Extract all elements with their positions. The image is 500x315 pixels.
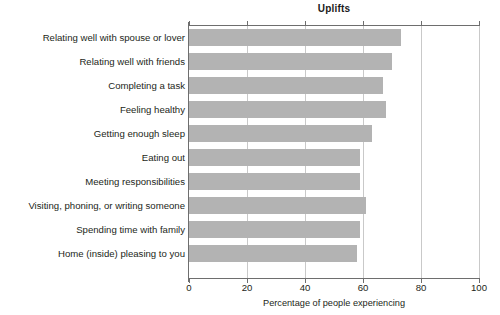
category-label: Meeting responsibilities bbox=[4, 170, 189, 194]
axis-line-bottom bbox=[189, 278, 479, 279]
bar-row bbox=[189, 26, 479, 50]
x-tick-label: 100 bbox=[471, 282, 487, 293]
x-tick-label: 60 bbox=[358, 282, 369, 293]
bar-row bbox=[189, 50, 479, 74]
bar-row bbox=[189, 122, 479, 146]
bar-row bbox=[189, 170, 479, 194]
plot-area bbox=[189, 26, 479, 278]
gridline-100 bbox=[479, 26, 480, 278]
chart-title: Uplifts bbox=[189, 3, 479, 14]
bar-row bbox=[189, 98, 479, 122]
tick-top-40 bbox=[305, 21, 306, 26]
category-label: Getting enough sleep bbox=[4, 122, 189, 146]
tick-top-80 bbox=[421, 21, 422, 26]
category-label: Feeling healthy bbox=[4, 98, 189, 122]
bar bbox=[189, 197, 366, 214]
bar bbox=[189, 29, 401, 46]
tick-top-60 bbox=[363, 21, 364, 26]
category-label: Home (inside) pleasing to you bbox=[4, 242, 189, 266]
bar-row bbox=[189, 242, 479, 266]
category-label: Relating well with friends bbox=[4, 50, 189, 74]
bar-row bbox=[189, 146, 479, 170]
bar-row bbox=[189, 194, 479, 218]
x-tick-label: 40 bbox=[300, 282, 311, 293]
category-label: Eating out bbox=[4, 146, 189, 170]
bar bbox=[189, 53, 392, 70]
bar bbox=[189, 125, 372, 142]
category-label: Spending time with family bbox=[4, 218, 189, 242]
x-tick-label: 20 bbox=[242, 282, 253, 293]
bar bbox=[189, 77, 383, 94]
bar bbox=[189, 221, 360, 238]
bar bbox=[189, 245, 357, 262]
tick-top-20 bbox=[247, 21, 248, 26]
x-tick-label: 80 bbox=[416, 282, 427, 293]
bar-row bbox=[189, 218, 479, 242]
category-axis-labels: Relating well with spouse or loverRelati… bbox=[0, 26, 189, 278]
tick-top-0 bbox=[189, 21, 190, 26]
bar-row bbox=[189, 74, 479, 98]
chart-figure: Uplifts Relating well with spouse or lov… bbox=[0, 0, 500, 315]
x-axis-title: Percentage of people experiencing bbox=[189, 298, 479, 308]
bar bbox=[189, 101, 386, 118]
x-tick-label: 0 bbox=[186, 282, 191, 293]
category-label: Relating well with spouse or lover bbox=[4, 26, 189, 50]
tick-top-100 bbox=[479, 21, 480, 26]
bar bbox=[189, 149, 360, 166]
category-label: Visiting, phoning, or writing someone bbox=[4, 194, 189, 218]
bar bbox=[189, 173, 360, 190]
category-label: Completing a task bbox=[4, 74, 189, 98]
